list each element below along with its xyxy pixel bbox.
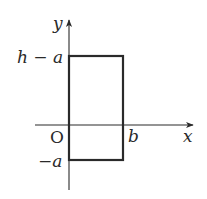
h-minus-a-label: h − a [17, 47, 63, 67]
y-axis-label: y [52, 13, 63, 33]
minus-a-label: −a [38, 151, 62, 171]
diagram-svg: y x O b h − a −a [0, 0, 207, 199]
origin-label: O [50, 127, 64, 147]
b-label: b [128, 126, 139, 146]
x-axis-label: x [183, 126, 193, 146]
diagram-canvas: y x O b h − a −a [0, 0, 207, 199]
rectangle [69, 56, 123, 160]
